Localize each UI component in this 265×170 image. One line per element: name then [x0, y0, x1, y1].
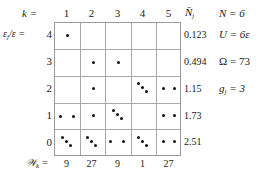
column-header-k4: 4	[130, 7, 155, 19]
grid-divider	[80, 23, 81, 155]
particle-dot	[59, 115, 62, 118]
k-axis-label: k =	[22, 7, 37, 19]
particle-dot	[65, 140, 68, 143]
particle-dot	[109, 140, 112, 143]
grid-divider	[55, 129, 180, 130]
column-header-k3: 3	[105, 7, 130, 19]
grid-divider	[55, 49, 180, 50]
particle-dot	[90, 140, 93, 143]
param-n: N = 6	[219, 7, 245, 19]
w-value-k2: 27	[79, 158, 104, 169]
grid-divider	[131, 23, 132, 155]
particle-dot	[117, 61, 120, 64]
particle-dot	[72, 115, 75, 118]
row-header-4: 4	[42, 28, 52, 40]
particle-dot	[145, 144, 148, 147]
particle-dot	[92, 87, 95, 90]
nbar-value-row4: 0.123	[184, 29, 207, 40]
particle-dot	[137, 136, 140, 139]
w-value-k1: 9	[54, 158, 79, 169]
w-value-k5: 27	[156, 158, 181, 169]
column-header-k5: 5	[156, 7, 181, 19]
particle-dot	[94, 144, 97, 147]
energy-axis-label: εj/ε =	[3, 28, 25, 43]
grid-divider	[105, 23, 106, 155]
particle-dot	[162, 87, 165, 90]
row-header-3: 3	[42, 55, 52, 67]
particle-dot	[162, 114, 165, 117]
particle-dot	[137, 82, 140, 85]
particle-dot	[66, 34, 69, 37]
particle-dot	[116, 113, 119, 116]
nbar-value-row3: 0.494	[184, 56, 207, 67]
param-omega: Ω = 73	[219, 55, 250, 67]
grid-divider	[55, 103, 180, 104]
column-header-k1: 1	[54, 7, 79, 19]
occupation-grid	[54, 22, 181, 156]
grid-divider	[55, 76, 180, 77]
nbar-value-row1: 1.73	[184, 110, 202, 121]
particle-dot	[173, 87, 176, 90]
w-value-k3: 9	[105, 158, 130, 169]
particle-dot	[162, 140, 165, 143]
particle-dot	[141, 140, 144, 143]
grid-divider	[156, 23, 157, 155]
row-header-1: 1	[42, 109, 52, 121]
nbar-value-row0: 2.51	[184, 136, 202, 147]
row-header-0: 0	[42, 136, 52, 148]
particle-dot	[61, 136, 64, 139]
particle-dot	[112, 109, 115, 112]
particle-dot	[92, 61, 95, 64]
nbar-value-row2: 1.15	[184, 83, 202, 94]
param-g: gj = 3	[219, 82, 245, 96]
particle-dot	[173, 140, 176, 143]
nbar-header: N̄j	[185, 6, 194, 22]
column-header-k2: 2	[79, 7, 104, 19]
particle-dot	[69, 144, 72, 147]
w-value-k4: 1	[130, 158, 155, 169]
row-header-2: 2	[42, 82, 52, 94]
particle-dot	[122, 140, 125, 143]
param-u: U = 6ε	[219, 28, 250, 40]
particle-dot	[92, 114, 95, 117]
particle-dot	[86, 136, 89, 139]
particle-dot	[145, 90, 148, 93]
particle-dot	[141, 86, 144, 89]
w-axis-label: 𝒲k =	[26, 157, 48, 170]
particle-dot	[173, 114, 176, 117]
particle-dot	[120, 117, 123, 120]
